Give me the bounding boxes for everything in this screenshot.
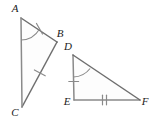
geometry-diagram-canvas: A B C D E F — [0, 0, 151, 116]
vertex-label-f: F — [141, 95, 149, 107]
side-ca — [21, 18, 22, 107]
vertex-label-c: C — [11, 106, 19, 116]
geometry-figure: A B C D E F — [0, 0, 151, 116]
vertex-label-a: A — [11, 2, 19, 14]
triangle-abc: A B C — [11, 2, 64, 116]
triangle-abc-fill — [21, 18, 57, 107]
vertex-label-e: E — [63, 95, 71, 107]
triangle-def: D E F — [63, 40, 149, 107]
vertex-label-d: D — [63, 40, 72, 52]
vertex-label-b: B — [57, 27, 64, 39]
